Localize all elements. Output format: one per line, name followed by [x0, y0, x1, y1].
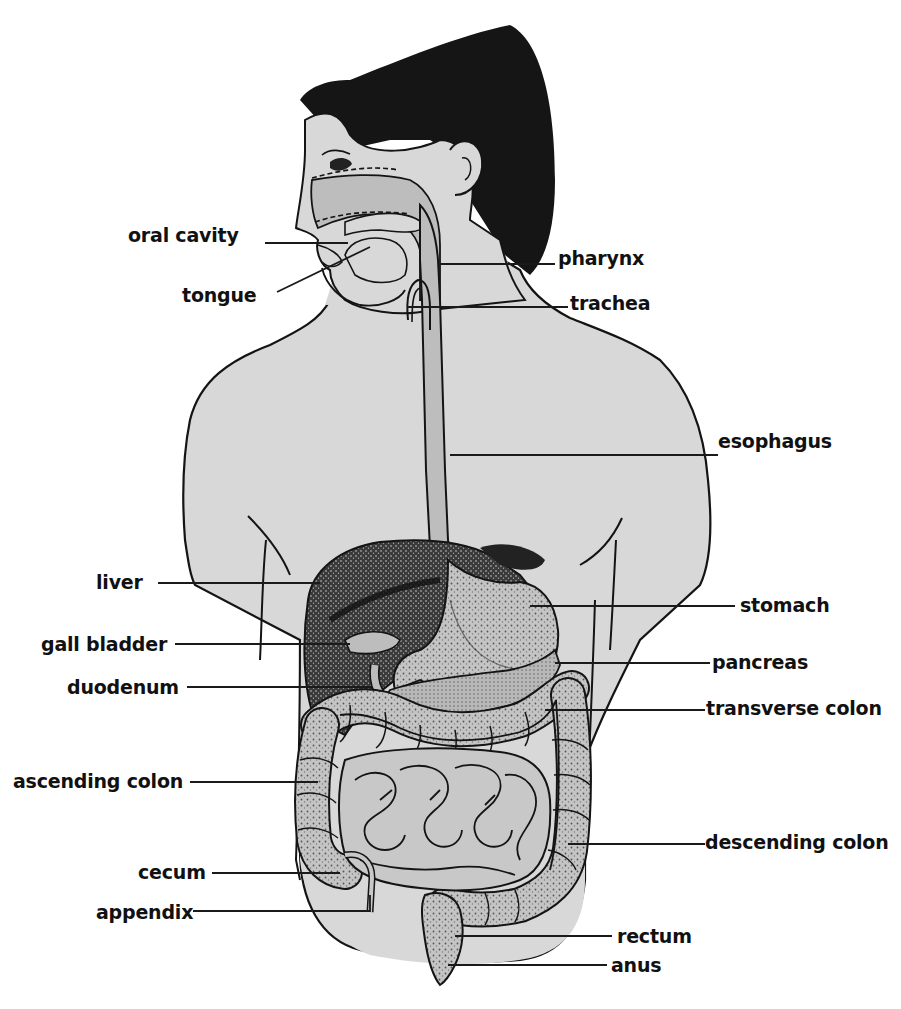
label-oral-cavity: oral cavity	[128, 224, 239, 246]
label-transverse-colon: transverse colon	[706, 697, 882, 719]
label-anus: anus	[611, 954, 661, 976]
label-gall-bladder: gall bladder	[41, 633, 167, 655]
digestive-system-diagram: oral cavity tongue pharynx trachea esoph…	[0, 0, 901, 1009]
label-pancreas: pancreas	[712, 651, 808, 673]
label-trachea: trachea	[570, 292, 650, 314]
label-rectum: rectum	[617, 925, 692, 947]
label-stomach: stomach	[740, 594, 829, 616]
label-liver: liver	[96, 571, 143, 593]
label-cecum: cecum	[138, 861, 206, 883]
label-pharynx: pharynx	[558, 247, 644, 269]
label-appendix: appendix	[96, 901, 193, 923]
anatomy-illustration	[0, 0, 901, 1009]
label-descending-colon: descending colon	[705, 831, 889, 853]
label-tongue: tongue	[182, 284, 256, 306]
label-esophagus: esophagus	[718, 430, 832, 452]
rectum	[422, 893, 463, 985]
label-duodenum: duodenum	[67, 676, 179, 698]
label-ascending-colon: ascending colon	[13, 770, 183, 792]
